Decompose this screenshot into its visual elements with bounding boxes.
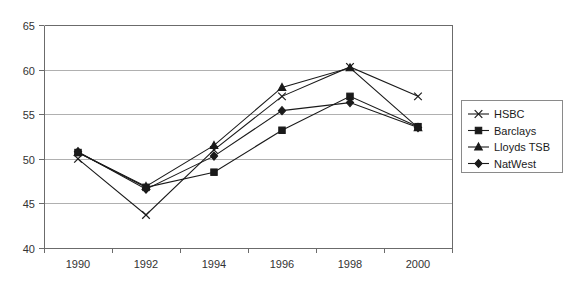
data-series-group (74, 63, 422, 219)
x-tick-label: 1996 (270, 258, 294, 270)
series-line (78, 67, 418, 215)
legend-label: HSBC (494, 108, 525, 120)
x-tick-label: 1994 (202, 258, 226, 270)
y-tick-label: 50 (23, 154, 35, 166)
series-line (78, 96, 418, 187)
y-tick-label: 40 (23, 243, 35, 255)
legend-entry[interactable]: NatWest (468, 158, 536, 170)
data-series (74, 64, 422, 190)
series-line (78, 68, 418, 187)
legend-label: Barclays (494, 125, 537, 137)
data-point-marker (414, 93, 422, 101)
data-series (74, 63, 422, 219)
chart-container: 404550556065 199019921994199619982000 HS… (0, 0, 567, 294)
legend-label: Lloyds TSB (494, 141, 550, 153)
legend: HSBCBarclaysLloyds TSBNatWest (462, 101, 563, 173)
plot-frame (45, 26, 453, 249)
data-point-marker (142, 211, 150, 219)
legend-label: NatWest (494, 158, 536, 170)
x-tick-label: 1998 (338, 258, 362, 270)
data-point-marker (278, 93, 286, 101)
y-tick-label: 55 (23, 109, 35, 121)
y-tick-label: 60 (23, 65, 35, 77)
data-point-marker (278, 107, 285, 115)
data-point-marker (279, 127, 285, 133)
data-series (74, 99, 421, 194)
line-chart: 404550556065 199019921994199619982000 HS… (0, 0, 567, 294)
x-tick-label: 2000 (406, 258, 430, 270)
x-tick-label: 1990 (66, 258, 90, 270)
data-series (75, 93, 421, 190)
data-point-marker (210, 152, 217, 160)
x-tick-label: 1992 (134, 258, 158, 270)
data-point-marker (211, 169, 217, 175)
y-axis-ticks (39, 26, 44, 249)
y-tick-label: 65 (23, 20, 35, 32)
y-tick-label: 45 (23, 198, 35, 210)
x-axis-tick-labels: 199019921994199619982000 (66, 258, 430, 270)
series-line (78, 103, 418, 190)
legend-marker (475, 127, 481, 133)
y-axis-tick-labels: 404550556065 (23, 20, 35, 255)
